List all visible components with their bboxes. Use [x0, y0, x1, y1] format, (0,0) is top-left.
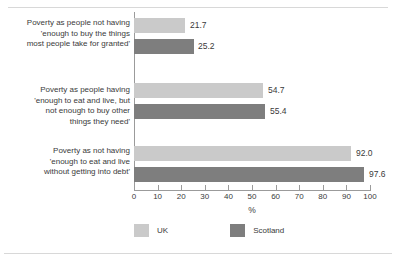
bar-uk-3 [134, 146, 351, 161]
legend-label-uk: UK [157, 226, 168, 235]
x-tick-label-30: 30 [200, 192, 209, 201]
x-tick-80 [323, 185, 324, 190]
bar-value-uk-1: 21.7 [190, 18, 207, 33]
figure-bottom-divider [4, 253, 392, 254]
legend-swatch-uk-icon [134, 224, 149, 237]
x-tick-label-0: 0 [132, 192, 136, 201]
bar-value-scotland-2: 55.4 [270, 104, 287, 119]
bar-scotland-2 [134, 104, 265, 119]
x-tick-label-80: 80 [318, 192, 327, 201]
legend-label-scotland: Scotland [253, 226, 284, 235]
x-tick-label-60: 60 [271, 192, 280, 201]
x-tick-40 [228, 185, 229, 190]
bar-chart-figure: Poverty as people not having 'enough to … [0, 0, 396, 265]
x-tick-50 [252, 185, 253, 190]
x-tick-label-50: 50 [248, 192, 257, 201]
bar-scotland-3 [134, 167, 364, 182]
legend-swatch-scotland-icon [230, 224, 245, 237]
x-tick-90 [346, 185, 347, 190]
x-tick-10 [158, 185, 159, 190]
bar-uk-2 [134, 83, 263, 98]
bar-value-scotland-1: 25.2 [198, 39, 215, 54]
x-tick-60 [276, 185, 277, 190]
legend-item-scotland: Scotland [230, 224, 284, 237]
bar-uk-1 [134, 18, 185, 33]
x-tick-label-100: 100 [363, 192, 376, 201]
chart-legend: UK Scotland [134, 224, 284, 237]
x-tick-label-40: 40 [224, 192, 233, 201]
category-label-3: Poverty as not having 'enough to eat and… [2, 146, 130, 178]
x-tick-label-70: 70 [295, 192, 304, 201]
x-tick-30 [205, 185, 206, 190]
bar-value-scotland-3: 97.6 [369, 167, 386, 182]
x-tick-20 [181, 185, 182, 190]
x-axis-line [134, 190, 371, 191]
legend-item-uk: UK [134, 224, 168, 237]
x-tick-label-90: 90 [342, 192, 351, 201]
figure-top-divider [8, 7, 388, 8]
category-label-1: Poverty as people not having 'enough to … [2, 18, 130, 50]
bar-value-uk-2: 54.7 [268, 83, 285, 98]
x-tick-100 [370, 185, 371, 190]
x-tick-0 [134, 185, 135, 190]
bar-scotland-1 [134, 39, 194, 54]
x-tick-label-10: 10 [153, 192, 162, 201]
category-label-2: Poverty as people having 'enough to eat … [2, 85, 130, 127]
bar-value-uk-3: 92.0 [356, 146, 373, 161]
x-axis-title: % [134, 205, 370, 215]
x-tick-label-20: 20 [177, 192, 186, 201]
x-tick-70 [299, 185, 300, 190]
